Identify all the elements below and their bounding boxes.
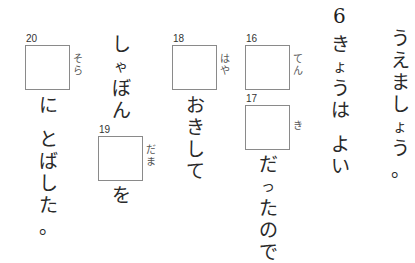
item-number-18: 18 [173,34,184,44]
question-number: 6 [333,4,346,28]
text-column-okishite: お き し て [183,94,207,182]
text-column-ni-tobashita: に と ば し た 。 [36,94,60,238]
char: っ [256,175,280,197]
char: う [328,77,352,99]
char: だ [256,153,280,175]
item-number-17: 17 [246,94,257,104]
item-number-19: 19 [99,125,110,135]
char: た [256,197,280,219]
text-column-shabon: し ゃ ぼ ん [109,33,133,121]
furigana-19: だ ま [145,144,157,168]
char: ま [388,71,412,93]
furigana-char: て [293,53,303,65]
answer-box-18[interactable] [172,45,217,90]
char: 。 [388,159,412,181]
char: よ [328,133,352,155]
char: ょ [328,55,352,77]
furigana-char: は [220,53,230,65]
text-column-kyouwa-yoi: き ょ う は よ い [328,33,352,177]
char: き [328,33,352,55]
space [36,116,60,128]
char: し [36,172,60,194]
answer-box-16[interactable] [245,45,290,90]
char: 。 [36,216,60,238]
char: ょ [388,115,412,137]
item-number-16: 16 [246,34,257,44]
text-column-dattanode: だ っ た の で [256,153,280,263]
text-column-uemashou: う え ま し ょ う 。 [388,27,412,181]
furigana-char: ん [293,65,303,77]
char: で [256,241,280,263]
item-number-20: 20 [26,34,37,44]
furigana-char: ら [73,65,83,77]
text-column-wo: を [109,184,133,206]
char: ば [36,150,60,172]
char: ゃ [109,55,133,77]
char: て [183,160,207,182]
char: い [328,155,352,177]
furigana-18: は や [219,53,231,77]
char: ん [109,99,133,121]
char: に [36,94,60,116]
space [328,121,352,133]
char: た [36,194,60,216]
furigana-char: や [220,65,230,77]
char: お [183,94,207,116]
char: う [388,137,412,159]
char: の [256,219,280,241]
furigana-char: そ [73,53,83,65]
furigana-20: そ ら [72,53,84,77]
char: を [109,184,133,206]
char: し [388,93,412,115]
char: と [36,128,60,150]
furigana-16: て ん [292,53,304,77]
answer-box-17[interactable] [245,105,290,150]
answer-box-20[interactable] [25,45,70,90]
char: え [388,49,412,71]
char: き [183,116,207,138]
furigana-17: き [292,120,304,132]
char: し [183,138,207,160]
char: は [328,99,352,121]
char: う [388,27,412,49]
furigana-char: だ [146,144,156,156]
answer-box-19[interactable] [98,136,143,181]
furigana-char: ま [146,156,156,168]
furigana-char: き [293,120,303,132]
char: し [109,33,133,55]
char: ぼ [109,77,133,99]
